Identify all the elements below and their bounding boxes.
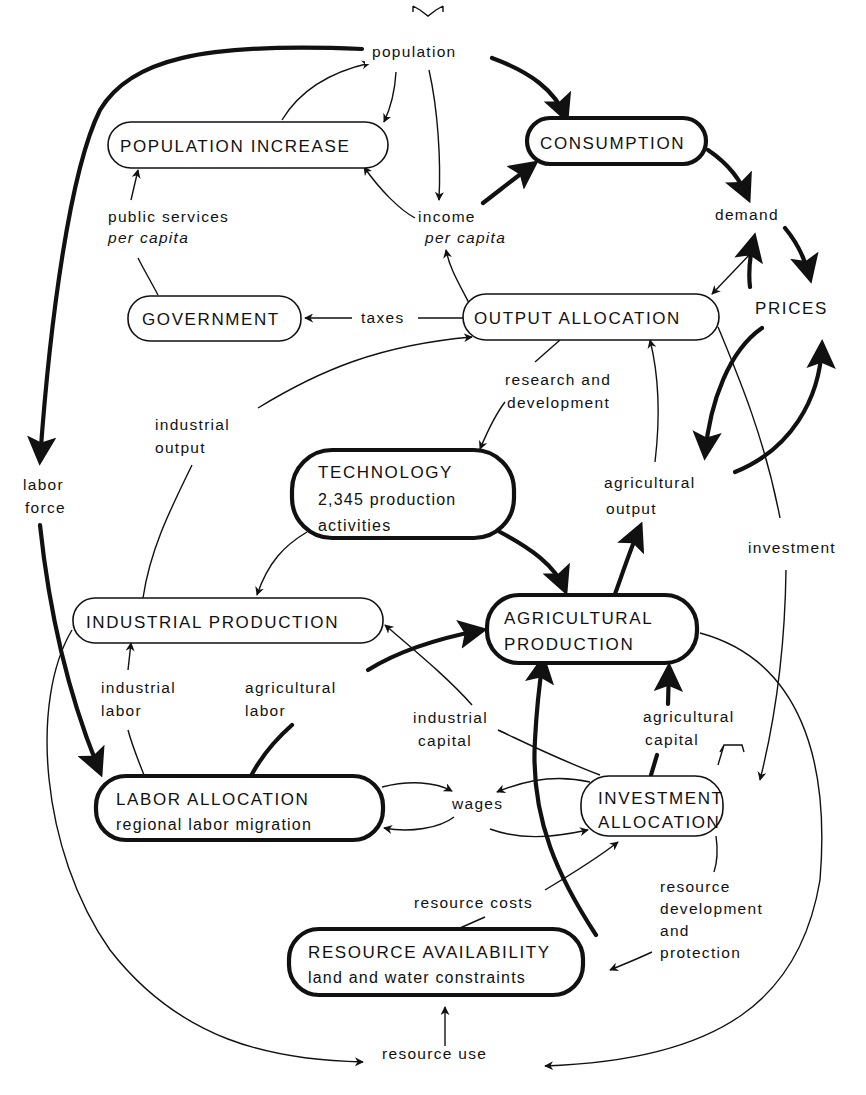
label-research: research and [505, 371, 611, 388]
edge-laborforce-laboralloc [40, 525, 100, 772]
label-agricultural-capital: agricultural [643, 708, 734, 725]
node-sublabel: regional labor migration [116, 816, 312, 833]
node-label: TECHNOLOGY [318, 463, 453, 482]
edge-publicservices-popincrease [131, 170, 138, 200]
edge-resourcedev-resourceavail [610, 952, 652, 970]
edge-aglabor-agprod [368, 630, 482, 670]
label-population: population [372, 43, 457, 60]
edge-investalloc-wages [497, 778, 590, 792]
edge-prices-agoutput [705, 328, 762, 455]
edge-laboralloc-aglabor [251, 725, 292, 776]
edge-investalloc-resourcedev [714, 836, 717, 872]
edge-agprod-resourceuse [545, 633, 822, 1066]
label-resource-development-4: protection [660, 944, 741, 961]
node-population-increase[interactable]: POPULATION INCREASE [108, 122, 388, 168]
edge-technology-agprod [500, 532, 565, 590]
edge-investalloc-agcapital [651, 755, 657, 775]
edge-laboralloc-wages [382, 783, 452, 791]
label-taxes: taxes [361, 309, 405, 326]
edge-resourceavail-resourcecosts [460, 917, 485, 928]
node-investment-allocation[interactable]: INVESTMENT ALLOCATION [581, 776, 724, 836]
edge-population-income [429, 70, 440, 200]
edge-research-technology [480, 402, 505, 449]
node-label: GOVERNMENT [142, 310, 280, 329]
node-output-allocation[interactable]: OUTPUT ALLOCATION [463, 294, 719, 340]
label-prices: PRICES [755, 299, 828, 318]
label-income: income [418, 208, 476, 225]
edge-demand-outputalloc [712, 252, 752, 294]
label-resource-development-3: and [660, 922, 690, 939]
node-technology[interactable]: TECHNOLOGY 2,345 production activities [292, 450, 514, 538]
label-public-services-sub: per capita [107, 229, 189, 246]
label-demand: demand [715, 206, 779, 223]
label-industrial-capital-sub: capital [418, 732, 472, 749]
edge-agcapital-agprod [668, 668, 669, 704]
edge-government-publicservices [138, 258, 158, 295]
edge-outputalloc-research [535, 340, 560, 362]
edge-wages-laboralloc [384, 817, 454, 830]
edge-income-consumption [483, 164, 534, 203]
edge-agoutput-prices [735, 345, 822, 472]
node-labor-allocation[interactable]: LABOR ALLOCATION regional labor migratio… [96, 776, 383, 840]
label-industrial-output-sub: output [155, 439, 206, 456]
label-resource-costs: resource costs [414, 894, 533, 911]
label-public-services: public services [108, 208, 229, 225]
edge-population-laborforce [40, 48, 362, 460]
edge-outputalloc-investment [718, 327, 780, 518]
node-label: POPULATION INCREASE [120, 137, 350, 156]
hook-mark-icon [718, 745, 744, 765]
label-industrial-capital: industrial [413, 709, 488, 726]
edge-outputalloc-income [446, 250, 470, 305]
label-labor-force: labor [23, 476, 64, 493]
edge-popincrease-population [282, 63, 370, 120]
edge-investment-investalloc [760, 570, 786, 780]
label-labor-force-sub: force [25, 499, 66, 516]
label-industrial-output: industrial [155, 416, 230, 433]
node-label: PRODUCTION [504, 635, 634, 654]
node-label: LABOR ALLOCATION [116, 790, 309, 809]
label-agricultural-labor-sub: labor [245, 702, 286, 719]
node-label: INVESTMENT [598, 789, 724, 808]
edge-agoutput-outputalloc [650, 340, 658, 462]
edge-agprod-agoutput [615, 527, 640, 594]
label-industrial-labor: industrial [101, 679, 176, 696]
label-resource-use: resource use [382, 1045, 487, 1062]
label-wages: wages [451, 795, 503, 812]
node-label: RESOURCE AVAILABILITY [308, 943, 551, 962]
variable-labels: population public services per capita in… [23, 40, 836, 1062]
label-research-sub: development [507, 394, 610, 411]
edge-demand-prices [785, 228, 810, 278]
edge-income-popincrease [364, 167, 415, 218]
edge-wages-investalloc [490, 829, 588, 837]
edge-prices-demand [749, 238, 754, 287]
edge-population-popincrease [384, 72, 396, 122]
node-sublabel: 2,345 production [318, 491, 456, 508]
node-industrial-production[interactable]: INDUSTRIAL PRODUCTION [73, 598, 383, 643]
edge-industriallabor-industrialprod [128, 643, 131, 670]
label-agricultural-labor: agricultural [245, 679, 336, 696]
edge-industrialprod-industrialoutput [143, 465, 192, 598]
node-government[interactable]: GOVERNMENT [128, 296, 301, 341]
edge-population-consumption [492, 58, 566, 118]
node-sublabel: activities [318, 517, 391, 534]
node-consumption[interactable]: CONSUMPTION [527, 118, 706, 164]
edge-technology-industrialprod [257, 532, 307, 595]
edge-investalloc-industrialcapital [498, 730, 600, 775]
node-label: OUTPUT ALLOCATION [474, 309, 681, 328]
node-label: INDUSTRIAL PRODUCTION [86, 613, 339, 632]
label-resource-development-2: development [660, 900, 763, 917]
node-sublabel: land and water constraints [308, 969, 526, 986]
edge-laboralloc-industriallabor [128, 730, 144, 775]
label-agricultural-output: agricultural [604, 474, 695, 491]
edge-industrialoutput-outputalloc [258, 337, 472, 408]
edge-consumption-demand [708, 150, 748, 198]
node-label: AGRICULTURAL [504, 609, 653, 628]
exogenous-input-icon [413, 6, 443, 16]
node-agricultural-production[interactable]: AGRICULTURAL PRODUCTION [487, 595, 697, 663]
label-investment: investment [748, 539, 836, 556]
label-industrial-labor-sub: labor [101, 702, 142, 719]
label-agricultural-output-sub: output [606, 500, 657, 517]
label-agricultural-capital-sub: capital [645, 731, 699, 748]
node-label: CONSUMPTION [540, 134, 685, 153]
node-resource-availability[interactable]: RESOURCE AVAILABILITY land and water con… [289, 929, 583, 995]
